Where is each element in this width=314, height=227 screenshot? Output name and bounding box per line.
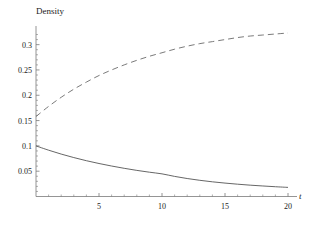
- density-plot: Density t 51015200.050.10.150.20.250.3: [0, 0, 314, 227]
- series-decaying-density: [36, 146, 288, 188]
- data-series: [36, 33, 288, 187]
- x-tick-label: 5: [97, 202, 101, 211]
- x-tick-label: 15: [221, 202, 229, 211]
- x-tick-label: 20: [284, 202, 292, 211]
- y-tick-label: 0.2: [22, 91, 32, 100]
- axis-lines: [36, 26, 297, 197]
- y-tick-label: 0.05: [18, 167, 32, 176]
- chart-canvas: [0, 0, 314, 227]
- y-tick-label: 0.15: [18, 116, 32, 125]
- axis-ticks: [36, 35, 288, 197]
- y-tick-label: 0.3: [22, 40, 32, 49]
- x-tick-label: 10: [158, 202, 166, 211]
- series-rising-density: [36, 33, 288, 117]
- y-tick-label: 0.25: [18, 65, 32, 74]
- y-tick-label: 0.1: [22, 141, 32, 150]
